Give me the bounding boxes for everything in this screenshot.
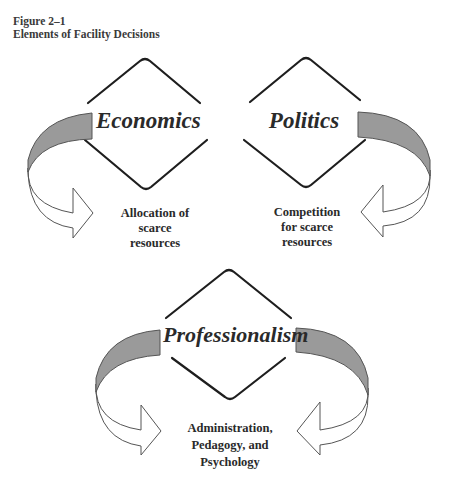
description-line: resources [100, 236, 210, 251]
concept-professionalism: Professionalism [163, 322, 296, 348]
curved-arrow-icon [96, 330, 161, 455]
curved-arrow-icon [358, 112, 430, 237]
curved-arrow-icon [28, 113, 93, 238]
description-line: Pedagogy, and [170, 437, 290, 454]
description-line: resources [252, 235, 362, 250]
description-line: scarce [100, 221, 210, 236]
professionalism-description: Administration, Pedagogy, and Psychology [170, 420, 290, 471]
description-line: Allocation of [100, 206, 210, 221]
description-line: for scarce [252, 220, 362, 235]
curved-arrow-icon [296, 328, 368, 455]
description-line: Psychology [170, 454, 290, 471]
diagram-canvas [0, 0, 454, 489]
politics-description: Competition for scarce resources [252, 205, 362, 250]
concept-economics: Economics [96, 108, 198, 134]
economics-description: Allocation of scarce resources [100, 206, 210, 251]
description-line: Administration, [170, 420, 290, 437]
concept-politics: Politics [262, 108, 346, 134]
description-line: Competition [252, 205, 362, 220]
